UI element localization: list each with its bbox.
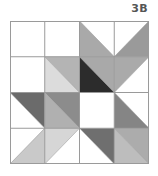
quilt-cell <box>80 57 115 93</box>
quilt-cell <box>10 57 45 93</box>
quilt-cell <box>114 57 149 93</box>
quilt-cell <box>10 128 45 164</box>
quilt-cell <box>80 21 115 57</box>
block-label: 3B <box>131 2 148 15</box>
quilt-cell <box>45 93 80 129</box>
quilt-cell <box>80 93 115 129</box>
quilt-cell <box>114 128 149 164</box>
quilt-cell <box>45 21 80 57</box>
quilt-cell <box>45 128 80 164</box>
quilt-cell <box>114 93 149 129</box>
quilt-cell <box>80 128 115 164</box>
quilt-cell <box>45 57 80 93</box>
quilt-cell <box>10 93 45 129</box>
quilt-block-grid <box>10 21 149 164</box>
quilt-cell <box>114 21 149 57</box>
quilt-cell <box>10 21 45 57</box>
quilt-pattern <box>10 21 149 164</box>
